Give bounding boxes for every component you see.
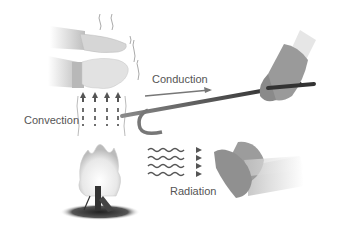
conduction-arrow [145,87,212,96]
campfire [60,144,140,220]
hands-warming-by-radiation [214,142,304,198]
label-conduction: Conduction [152,73,208,85]
label-radiation: Radiation [170,185,216,197]
hands-above-fire [48,14,139,89]
gloved-hand-holding-poker [260,30,316,101]
convection-arrows [77,92,126,136]
radiation-waves [148,147,202,177]
label-convection: Convection [24,114,79,126]
